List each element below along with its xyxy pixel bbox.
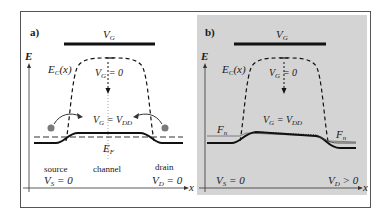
vg-zero-label: VG = 0 — [269, 68, 297, 80]
panel-b-label: b) — [205, 27, 215, 38]
vg0-eq: = 0 — [106, 67, 123, 78]
energy-axis-arrow-icon — [27, 63, 31, 68]
fermi-e: E — [103, 142, 110, 154]
quasi-fermi-left-label: Fn — [217, 124, 227, 137]
arrow-down-icon — [106, 88, 111, 94]
vgdd-eq: = V — [274, 114, 292, 125]
vs-eq: = 0 — [54, 174, 72, 186]
x-axis-label: x — [363, 182, 368, 193]
band-e: E — [48, 63, 55, 75]
source-voltage-label: VS = 0 — [44, 175, 73, 188]
fn-sub: n — [224, 129, 228, 137]
vg-vdd-label: VG = VDD — [93, 115, 132, 127]
quasi-fermi-right-label: Fn — [336, 129, 346, 142]
vd-eq: = 0 — [164, 174, 182, 186]
gate-sub: G — [110, 34, 115, 42]
drain-label: drain — [155, 163, 174, 172]
gate-voltage-label: VG — [276, 29, 288, 42]
panel-a-label: a) — [30, 27, 39, 38]
gate-v: V — [276, 28, 283, 40]
band-e: E — [222, 63, 229, 75]
channel-label: channel — [93, 165, 121, 174]
band-arg: (x) — [233, 63, 245, 75]
drain-voltage-label: VD > 0 — [328, 175, 358, 188]
source-voltage-label: VS = 0 — [216, 175, 245, 188]
band-edge-label: EC(x) — [48, 64, 72, 77]
x-axis-label: x — [189, 182, 194, 193]
arrow-left-icon — [133, 113, 139, 119]
injection-arrow-right — [136, 114, 162, 124]
drain-voltage-label: VD = 0 — [152, 175, 182, 188]
arrow-right-icon — [77, 113, 83, 119]
vgdd-eq: = V — [104, 114, 122, 125]
vg-zero-label: VG = 0 — [95, 68, 123, 80]
panel-b-background — [197, 15, 367, 195]
source-label: source — [44, 165, 68, 174]
vd-v: V — [328, 174, 335, 186]
electron-source — [48, 125, 55, 132]
vd-eq: > 0 — [340, 174, 358, 186]
vg0-eq: = 0 — [280, 67, 297, 78]
gate-sub: G — [283, 34, 288, 42]
vs-v: V — [44, 174, 51, 186]
vgdd-sub2: DD — [122, 119, 132, 127]
vgdd-sub2: DD — [292, 119, 302, 127]
vs-v: V — [216, 174, 223, 186]
fn-sub: n — [343, 134, 347, 142]
fermi-level-label: EF — [103, 143, 114, 156]
band-arg: (x) — [59, 63, 71, 75]
gate-v: V — [103, 28, 110, 40]
fn-f: F — [217, 123, 224, 135]
energy-axis-label: E — [25, 51, 32, 62]
fermi-sub: F — [110, 148, 114, 156]
vs-eq: = 0 — [226, 174, 244, 186]
gate-voltage-label: VG — [103, 29, 115, 42]
energy-axis-label: E — [201, 51, 208, 62]
injection-arrow-left — [54, 114, 80, 124]
fn-f: F — [336, 128, 343, 140]
band-edge-label: EC(x) — [222, 64, 246, 77]
electron-drain — [162, 125, 169, 132]
vg-vdd-label: VG = VDD — [263, 115, 302, 127]
vd-v: V — [152, 174, 159, 186]
